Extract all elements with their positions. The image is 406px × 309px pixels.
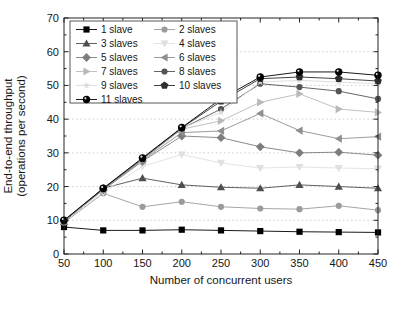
sphere-highlight — [180, 125, 182, 127]
data-point-marker — [256, 142, 265, 151]
data-point-marker — [295, 127, 302, 135]
data-point-marker — [296, 90, 303, 98]
legend-marker — [83, 96, 90, 103]
data-point-marker — [335, 135, 342, 143]
data-point-marker — [100, 227, 106, 233]
y-tick-label: 40 — [47, 113, 59, 125]
y-axis-label: (operations per second) — [15, 75, 27, 197]
chart-figure: 5010015020025030035040045001020304050607… — [0, 0, 406, 309]
x-tick-label: 400 — [330, 257, 348, 269]
sphere-highlight — [84, 97, 86, 99]
data-point-marker — [139, 154, 146, 161]
x-axis-label: Number of concurrent users — [150, 274, 293, 286]
legend-label: 10 slaves — [179, 80, 221, 91]
data-point-marker — [336, 88, 342, 94]
data-point-marker — [257, 205, 263, 211]
data-point-marker — [335, 75, 343, 82]
data-point-marker — [334, 148, 343, 157]
x-tick-label: 50 — [58, 257, 70, 269]
data-point-marker — [218, 117, 225, 125]
legend-label: 6 slaves — [179, 52, 216, 63]
data-point-marker — [296, 229, 302, 235]
y-tick-label: 60 — [47, 46, 59, 58]
y-axis-label: End-to-end throughput — [2, 78, 14, 194]
x-tick-label: 350 — [290, 257, 308, 269]
data-point-marker — [296, 206, 302, 212]
data-point-marker — [295, 148, 304, 157]
legend-label: 1 slave — [101, 24, 133, 35]
data-point-marker — [335, 68, 342, 75]
data-point-marker — [335, 165, 343, 172]
sphere-highlight — [297, 70, 299, 72]
sphere-highlight — [140, 156, 142, 158]
data-point-marker — [257, 228, 263, 234]
legend-marker — [161, 26, 167, 32]
legend-label: 5 slaves — [101, 52, 138, 63]
data-point-marker — [100, 185, 107, 192]
legend-label: 7 slaves — [101, 66, 138, 77]
x-tick-label: 150 — [133, 257, 151, 269]
legend-label: 4 slaves — [179, 38, 216, 49]
legend-label: 2 slaves — [179, 24, 216, 35]
legend-marker — [161, 68, 167, 74]
data-point-marker — [295, 181, 303, 188]
data-point-marker — [138, 174, 146, 181]
data-point-marker — [179, 227, 185, 233]
y-tick-label: 30 — [47, 147, 59, 159]
x-tick-label: 250 — [212, 257, 230, 269]
data-point-marker — [178, 124, 185, 131]
data-point-marker — [336, 105, 343, 113]
throughput-line-chart: 5010015020025030035040045001020304050607… — [0, 0, 406, 309]
sphere-highlight — [258, 75, 260, 77]
legend-marker — [83, 26, 89, 32]
y-tick-label: 10 — [47, 214, 59, 226]
data-point-marker — [336, 203, 342, 209]
data-point-marker — [139, 227, 145, 233]
y-tick-label: 20 — [47, 181, 59, 193]
data-point-marker — [218, 227, 224, 233]
data-point-marker — [256, 165, 264, 172]
data-point-marker — [296, 84, 302, 90]
x-tick-label: 200 — [173, 257, 191, 269]
data-point-marker — [257, 98, 264, 106]
y-tick-label: 50 — [47, 79, 59, 91]
x-tick-label: 300 — [251, 257, 269, 269]
sphere-highlight — [101, 186, 103, 188]
data-point-marker — [336, 229, 342, 235]
data-point-marker — [296, 68, 303, 75]
data-point-marker — [218, 204, 224, 210]
legend-label: 8 slaves — [179, 66, 216, 77]
y-tick-label: 0 — [53, 248, 59, 260]
sphere-highlight — [337, 70, 339, 72]
data-point-marker — [256, 109, 263, 117]
legend-label: 3 slaves — [101, 38, 138, 49]
y-tick-label: 70 — [47, 12, 59, 24]
legend-label: 9 slaves — [101, 80, 138, 91]
x-tick-label: 450 — [369, 257, 387, 269]
legend-label: 11 slaves — [101, 94, 143, 105]
x-tick-label: 100 — [94, 257, 112, 269]
data-point-marker — [257, 73, 264, 80]
data-point-marker — [179, 199, 185, 205]
data-point-marker — [139, 204, 145, 210]
